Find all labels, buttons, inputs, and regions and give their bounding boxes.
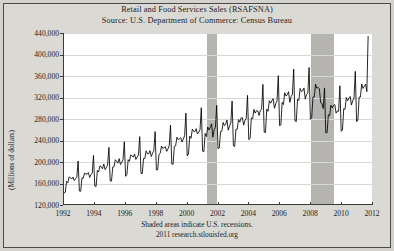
data-series xyxy=(64,33,372,204)
plot-region xyxy=(63,33,372,205)
chart-figure: Retail and Food Services Sales (RSAFSNA)… xyxy=(0,0,394,251)
y-tick-label: 360,000 xyxy=(3,72,59,81)
chart-footer: Shaded areas indicate U.S. recessions. 2… xyxy=(0,220,394,239)
y-tick-mark xyxy=(60,98,63,99)
y-tick-label: 200,000 xyxy=(3,158,59,167)
y-tick-label: 400,000 xyxy=(3,50,59,59)
y-tick-label: 240,000 xyxy=(3,136,59,145)
x-tick-mark xyxy=(63,202,64,205)
x-tick-mark xyxy=(248,202,249,205)
x-tick-mark xyxy=(94,202,95,205)
y-tick-mark xyxy=(60,55,63,56)
chart-title-block: Retail and Food Services Sales (RSAFSNA)… xyxy=(0,4,394,26)
y-tick-mark xyxy=(60,119,63,120)
x-tick-mark xyxy=(310,202,311,205)
x-tick-mark xyxy=(279,202,280,205)
x-tick-mark xyxy=(125,202,126,205)
y-tick-mark xyxy=(60,205,63,206)
recession-note: Shaded areas indicate U.S. recessions. xyxy=(0,220,394,230)
y-tick-label: 280,000 xyxy=(3,115,59,124)
y-tick-label: 320,000 xyxy=(3,93,59,102)
x-tick-mark xyxy=(372,202,373,205)
plot-area xyxy=(63,33,372,205)
x-tick-mark xyxy=(156,202,157,205)
source-credit: 2011 research.stlouisfed.org xyxy=(0,230,394,240)
y-tick-mark xyxy=(60,141,63,142)
x-tick-mark xyxy=(341,202,342,205)
chart-title: Retail and Food Services Sales (RSAFSNA) xyxy=(0,4,394,15)
x-tick-mark xyxy=(218,202,219,205)
x-tick-mark xyxy=(187,202,188,205)
chart-subtitle: Source: U.S. Department of Commerce: Cen… xyxy=(0,15,394,26)
series-line xyxy=(64,36,368,193)
x-tick-label: 2012 xyxy=(352,209,392,218)
y-tick-mark xyxy=(60,76,63,77)
y-tick-label: 440,000 xyxy=(3,29,59,38)
y-tick-mark xyxy=(60,184,63,185)
y-tick-mark xyxy=(60,162,63,163)
y-tick-label: 160,000 xyxy=(3,179,59,188)
y-tick-mark xyxy=(60,33,63,34)
